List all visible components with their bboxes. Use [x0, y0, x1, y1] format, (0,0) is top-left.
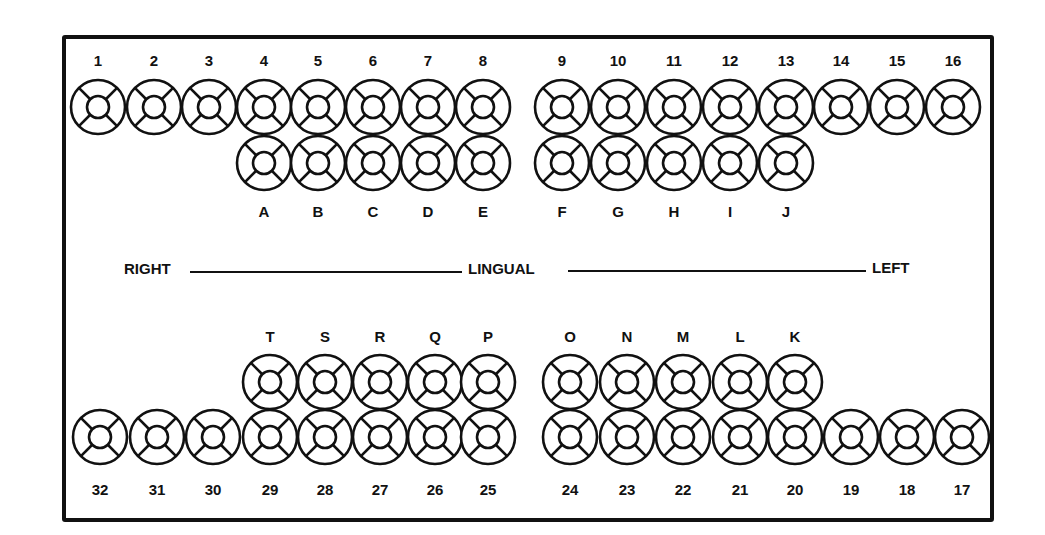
tooth-label-11: 11 — [666, 52, 682, 69]
tooth-label-S: S — [320, 328, 330, 345]
tooth-24[interactable] — [543, 410, 597, 464]
tooth-R[interactable] — [353, 355, 407, 409]
tooth-label-7: 7 — [424, 52, 432, 69]
tooth-8[interactable] — [456, 80, 510, 134]
tooth-label-6: 6 — [369, 52, 377, 69]
tooth-label-Q: Q — [429, 328, 441, 345]
tooth-26[interactable] — [408, 410, 462, 464]
tooth-label-25: 25 — [480, 481, 497, 498]
tooth-N[interactable] — [600, 355, 654, 409]
tooth-19[interactable] — [824, 410, 878, 464]
tooth-O[interactable] — [543, 355, 597, 409]
tooth-23[interactable] — [600, 410, 654, 464]
tooth-2[interactable] — [127, 80, 181, 134]
label-lingual: LINGUAL — [468, 260, 535, 277]
tooth-20[interactable] — [768, 410, 822, 464]
tooth-32[interactable] — [73, 410, 127, 464]
tooth-14[interactable] — [814, 80, 868, 134]
tooth-6[interactable] — [346, 80, 400, 134]
tooth-label-27: 27 — [372, 481, 389, 498]
tooth-label-C: C — [368, 203, 379, 220]
tooth-label-26: 26 — [427, 481, 444, 498]
tooth-D[interactable] — [401, 136, 455, 190]
tooth-label-E: E — [478, 203, 488, 220]
tooth-L[interactable] — [713, 355, 767, 409]
tooth-label-L: L — [735, 328, 744, 345]
tooth-25[interactable] — [461, 410, 515, 464]
tooth-28[interactable] — [298, 410, 352, 464]
tooth-label-24: 24 — [562, 481, 579, 498]
tooth-label-19: 19 — [843, 481, 860, 498]
tooth-31[interactable] — [130, 410, 184, 464]
tooth-label-29: 29 — [262, 481, 279, 498]
tooth-label-3: 3 — [205, 52, 213, 69]
tooth-T[interactable] — [243, 355, 297, 409]
tooth-1[interactable] — [71, 80, 125, 134]
tooth-15[interactable] — [870, 80, 924, 134]
tooth-label-F: F — [557, 203, 566, 220]
tooth-label-21: 21 — [732, 481, 749, 498]
tooth-label-J: J — [782, 203, 790, 220]
tooth-17[interactable] — [935, 410, 989, 464]
tooth-F[interactable] — [535, 136, 589, 190]
tooth-16[interactable] — [926, 80, 980, 134]
tooth-10[interactable] — [591, 80, 645, 134]
tooth-7[interactable] — [401, 80, 455, 134]
tooth-label-22: 22 — [675, 481, 692, 498]
tooth-label-5: 5 — [314, 52, 322, 69]
tooth-label-N: N — [622, 328, 633, 345]
tooth-label-12: 12 — [722, 52, 739, 69]
tooth-H[interactable] — [647, 136, 701, 190]
tooth-label-D: D — [423, 203, 434, 220]
tooth-9[interactable] — [535, 80, 589, 134]
tooth-G[interactable] — [591, 136, 645, 190]
tooth-label-I: I — [728, 203, 732, 220]
tooth-label-15: 15 — [889, 52, 906, 69]
tooth-label-O: O — [564, 328, 576, 345]
tooth-C[interactable] — [346, 136, 400, 190]
label-right: RIGHT — [124, 260, 171, 277]
tooth-label-4: 4 — [260, 52, 269, 69]
tooth-13[interactable] — [759, 80, 813, 134]
tooth-label-B: B — [313, 203, 324, 220]
tooth-label-2: 2 — [150, 52, 158, 69]
tooth-27[interactable] — [353, 410, 407, 464]
tooth-label-T: T — [265, 328, 274, 345]
tooth-12[interactable] — [703, 80, 757, 134]
tooth-label-28: 28 — [317, 481, 334, 498]
tooth-Q[interactable] — [408, 355, 462, 409]
tooth-label-18: 18 — [899, 481, 916, 498]
tooth-21[interactable] — [713, 410, 767, 464]
tooth-label-30: 30 — [205, 481, 222, 498]
tooth-label-13: 13 — [778, 52, 795, 69]
tooth-label-8: 8 — [479, 52, 487, 69]
tooth-J[interactable] — [759, 136, 813, 190]
tooth-label-16: 16 — [945, 52, 962, 69]
label-left: LEFT — [872, 259, 910, 276]
tooth-label-14: 14 — [833, 52, 850, 69]
tooth-label-R: R — [375, 328, 386, 345]
tooth-I[interactable] — [703, 136, 757, 190]
tooth-M[interactable] — [656, 355, 710, 409]
tooth-label-10: 10 — [610, 52, 627, 69]
tooth-label-M: M — [677, 328, 690, 345]
tooth-4[interactable] — [237, 80, 291, 134]
tooth-18[interactable] — [880, 410, 934, 464]
tooth-K[interactable] — [768, 355, 822, 409]
tooth-label-20: 20 — [787, 481, 804, 498]
tooth-30[interactable] — [186, 410, 240, 464]
tooth-label-1: 1 — [94, 52, 102, 69]
tooth-3[interactable] — [182, 80, 236, 134]
tooth-A[interactable] — [237, 136, 291, 190]
tooth-label-H: H — [669, 203, 680, 220]
tooth-E[interactable] — [456, 136, 510, 190]
tooth-label-9: 9 — [558, 52, 566, 69]
tooth-B[interactable] — [291, 136, 345, 190]
tooth-29[interactable] — [243, 410, 297, 464]
tooth-S[interactable] — [298, 355, 352, 409]
tooth-22[interactable] — [656, 410, 710, 464]
tooth-P[interactable] — [461, 355, 515, 409]
tooth-5[interactable] — [291, 80, 345, 134]
tooth-label-23: 23 — [619, 481, 636, 498]
tooth-11[interactable] — [647, 80, 701, 134]
